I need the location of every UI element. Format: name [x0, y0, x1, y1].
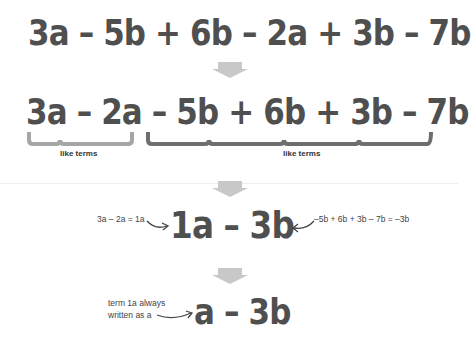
like-terms-label-a: like terms: [60, 149, 97, 158]
a-terms: 3a – 2a: [26, 91, 142, 132]
b-terms: – 5b + 6b + 3b – 7b: [152, 91, 469, 132]
curved-arrow-right-icon: [155, 309, 195, 321]
regrouped-expression: 3a – 2a – 5b + 6b + 3b – 7b: [26, 91, 469, 132]
like-terms-label-b: like terms: [283, 149, 320, 158]
final-expression: a – 3b: [194, 291, 290, 332]
brace-a-group: [29, 132, 132, 144]
down-arrow-icon: [212, 62, 248, 78]
brace-b-group: [148, 132, 431, 144]
down-arrow-icon: [212, 268, 248, 284]
curved-arrow-left-icon: [290, 219, 316, 233]
down-arrow-icon: [212, 181, 248, 197]
original-expression: 3a – 5b + 6b – 2a + 3b – 7b: [28, 12, 471, 53]
b-terms-sum-note: –5b + 6b + 3b – 7b = –3b: [314, 214, 409, 224]
coefficient-note-line2: written as a: [108, 310, 151, 320]
coefficient-note-line1: term 1a always: [108, 298, 165, 308]
simplified-expression: 1a – 3b: [170, 203, 294, 247]
a-terms-sum-note: 3a – 2a = 1a: [97, 214, 145, 224]
curved-arrow-right-icon: [145, 218, 171, 232]
